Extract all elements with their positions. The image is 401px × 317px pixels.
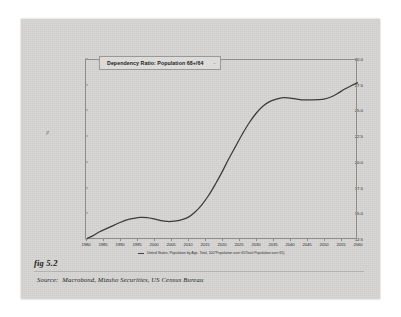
scanned-page-sheet: % 30.027.525.022.520.017.515.012.5 19801… <box>21 19 380 299</box>
data-line-plot <box>86 60 358 240</box>
x-axis-tick-label: 1980 <box>81 242 90 247</box>
x-axis-tick-mark <box>188 238 189 241</box>
x-axis-tick-label: 2000 <box>149 242 158 247</box>
caption-divider <box>34 271 364 272</box>
x-axis-tick-label: 2005 <box>166 242 175 247</box>
x-axis-tick-label: 2060 <box>353 242 362 247</box>
x-axis-tick-mark <box>154 238 155 241</box>
chart-title-tail: - <box>203 60 215 66</box>
x-axis-tick-mark <box>120 238 121 241</box>
x-axis-tick-mark <box>137 238 138 241</box>
x-axis-tick-label: 2055 <box>336 242 345 247</box>
x-axis-tick-mark <box>273 238 274 241</box>
source-attribution: Macrobond, Mizuho Securities, US Census … <box>62 276 203 283</box>
x-axis-tick-mark <box>222 238 223 241</box>
x-axis-tick-label: 2040 <box>285 242 294 247</box>
chart-title-text: Dependency Ratio: Population 68+/64 <box>107 60 203 66</box>
x-axis-tick-mark <box>86 238 87 241</box>
source-keyword: Source: <box>37 276 62 283</box>
x-axis-tick-label: 2030 <box>251 242 260 247</box>
chart-legend: United States, Population by Age, Total,… <box>55 251 367 255</box>
x-axis-tick-label: 2035 <box>268 242 277 247</box>
x-axis-tick-mark <box>205 238 206 241</box>
plot-frame: 1980198519901995200020052010201520202025… <box>85 59 357 239</box>
x-axis-tick-label: 2010 <box>183 242 192 247</box>
legend-label-united-states: United States, Population by Age, Total,… <box>147 251 285 255</box>
x-axis-tick-label: 1990 <box>115 242 124 247</box>
chart-title-box: Dependency Ratio: Population 68+/64- <box>99 56 221 70</box>
legend-line-swatch-icon <box>138 253 144 254</box>
x-axis-tick-label: 2050 <box>319 242 328 247</box>
figure-number-label: fig 5.2 <box>34 258 58 268</box>
x-axis-tick-mark <box>341 238 342 241</box>
x-axis-tick-mark <box>239 238 240 241</box>
source-line: Source:Macrobond, Mizuho Securities, US … <box>37 276 203 283</box>
x-axis-tick-label: 2045 <box>302 242 311 247</box>
x-axis-tick-label: 1985 <box>98 242 107 247</box>
series-line-united-states <box>86 83 358 239</box>
x-axis-tick-label: 2025 <box>234 242 243 247</box>
x-axis-tick-mark <box>358 238 359 241</box>
x-axis-tick-mark <box>171 238 172 241</box>
x-axis-tick-mark <box>103 238 104 241</box>
x-axis-tick-label: 2015 <box>200 242 209 247</box>
x-axis-tick-mark <box>290 238 291 241</box>
x-axis-tick-mark <box>307 238 308 241</box>
x-axis-tick-mark <box>324 238 325 241</box>
x-axis-tick-mark <box>256 238 257 241</box>
x-axis-tick-label: 2020 <box>217 242 226 247</box>
x-axis-tick-label: 1995 <box>132 242 141 247</box>
y-axis-title: % <box>45 113 50 153</box>
chart-container: % 30.027.525.022.520.017.515.012.5 19801… <box>55 42 367 252</box>
figure-page: % 30.027.525.022.520.017.515.012.5 19801… <box>0 0 401 317</box>
